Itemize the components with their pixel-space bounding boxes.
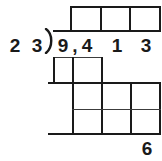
dividend-digit-4: 3 <box>139 36 153 55</box>
dividend-digit-2: 4 <box>80 36 94 55</box>
subtraction-row-1-cell-2[interactable] <box>74 58 101 82</box>
subtraction-row-1-cell-1[interactable] <box>55 58 72 82</box>
quotient-cell-1[interactable] <box>72 8 100 32</box>
division-bracket-icon <box>44 28 56 54</box>
divisor-digit-2: 3 <box>30 36 44 55</box>
work-row-2-right-border <box>159 84 161 109</box>
dividend-digit-3: 1 <box>110 36 124 55</box>
dividend-digit-1: 9 <box>56 36 70 55</box>
work-row-3-cell-1[interactable] <box>74 110 101 134</box>
remainder-value: 6 <box>139 139 155 158</box>
work-row-2-cell-3[interactable] <box>132 84 159 109</box>
work-row-3-cell-2[interactable] <box>103 110 130 134</box>
divisor-digit-1: 2 <box>8 36 22 55</box>
quotient-cell-3[interactable] <box>131 8 159 32</box>
work-row-2-cell-2[interactable] <box>103 84 130 109</box>
subtraction-row-1-right-border <box>101 57 103 83</box>
work-row-2-cell-1[interactable] <box>74 84 101 109</box>
subtraction-line-final <box>48 133 161 135</box>
quotient-box-right-border <box>159 6 161 32</box>
quotient-cell-2[interactable] <box>102 8 129 32</box>
work-row-3-cell-3[interactable] <box>132 110 159 134</box>
long-division-worksheet: 2 3 9 , 4 1 3 6 <box>0 0 162 161</box>
dividend-comma: , <box>70 36 80 55</box>
division-vinculum <box>53 30 161 32</box>
work-row-3-right-border <box>159 110 161 134</box>
